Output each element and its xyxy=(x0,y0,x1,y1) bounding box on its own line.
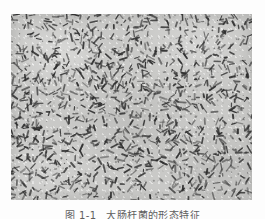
bacteria-rods-layer xyxy=(11,14,252,200)
figure-caption-text: 大肠杆菌的形态特征 xyxy=(106,210,200,219)
figure-page: 图 1-1大肠杆菌的形态特征 xyxy=(0,0,265,219)
micrograph-plate xyxy=(11,14,252,200)
figure-number: 图 1-1 xyxy=(65,210,97,219)
figure-caption: 图 1-1大肠杆菌的形态特征 xyxy=(0,210,265,219)
figure-caption-clip: 图 1-1大肠杆菌的形态特征 xyxy=(0,210,265,219)
